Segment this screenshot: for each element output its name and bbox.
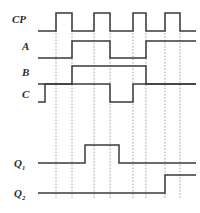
waveform-a bbox=[38, 41, 196, 58]
timing-diagram-figure: CP A B C Q 1 Q 2 bbox=[0, 0, 200, 213]
waveform-q1 bbox=[38, 145, 196, 163]
axis-label-q1: Q 1 bbox=[14, 157, 25, 171]
axis-label-q2: Q 2 bbox=[14, 187, 26, 201]
label-a: A bbox=[21, 40, 29, 52]
waveform-q2 bbox=[38, 175, 196, 193]
label-q2-subscript: 2 bbox=[21, 194, 26, 201]
axis-label-b: B bbox=[21, 66, 29, 78]
axis-label-c: C bbox=[22, 88, 30, 100]
waveform-c bbox=[38, 84, 196, 102]
label-q1-base: Q bbox=[14, 157, 22, 169]
label-q2-base: Q bbox=[14, 187, 22, 199]
label-q1-subscript: 1 bbox=[22, 164, 25, 171]
label-b: B bbox=[21, 66, 29, 78]
axis-label-a: A bbox=[21, 40, 29, 52]
waveform-cp bbox=[38, 13, 196, 31]
timing-diagram-canvas: CP A B C Q 1 Q 2 bbox=[0, 0, 200, 213]
axis-label-cp: CP bbox=[12, 13, 26, 25]
label-cp: CP bbox=[12, 13, 26, 25]
waveform-traces-group bbox=[38, 13, 196, 193]
label-c: C bbox=[22, 88, 30, 100]
waveform-b bbox=[38, 66, 196, 84]
